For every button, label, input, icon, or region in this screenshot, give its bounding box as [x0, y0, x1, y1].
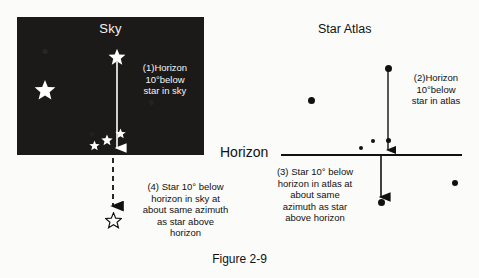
small-star-b: [101, 134, 113, 146]
small-star-c: [115, 128, 126, 139]
outline-star-below-horizon: [105, 212, 122, 229]
atlas-star-small-b: [359, 146, 363, 150]
bright-star-upper: [108, 48, 126, 66]
atlas-star-mid: [386, 138, 391, 143]
annotation-4-star-below-horizon-in-sky: (4) Star 10° below horizon in sky at abo…: [128, 181, 243, 239]
annotation-1-horizon-below-star-in-sky: (1)Horizon 10°below star in sky: [129, 62, 201, 97]
annotation-3-star-below-horizon-in-atlas: (3) Star 10° below horizon in atlas at a…: [256, 166, 374, 224]
atlas-star-below-horizon: [378, 199, 385, 206]
atlas-star-small-a: [371, 139, 375, 143]
figure-caption: Figure 2-9: [0, 252, 479, 266]
bright-star-left: [34, 79, 56, 101]
annotation-2-horizon-below-star-in-atlas: (2)Horizon 10°below star in atlas: [396, 72, 476, 107]
horizon-line: [281, 154, 462, 156]
atlas-panel-title: Star Atlas: [318, 22, 372, 36]
figure-2-9: Sky (1)Horizon 10°below star in sky (4) …: [0, 0, 479, 278]
small-star-a: [89, 140, 100, 151]
atlas-star-left: [308, 97, 315, 104]
sky-panel-title: Sky: [17, 21, 204, 36]
atlas-star-top: [385, 65, 392, 72]
horizon-label: Horizon: [220, 144, 268, 160]
atlas-star-right: [452, 180, 458, 186]
